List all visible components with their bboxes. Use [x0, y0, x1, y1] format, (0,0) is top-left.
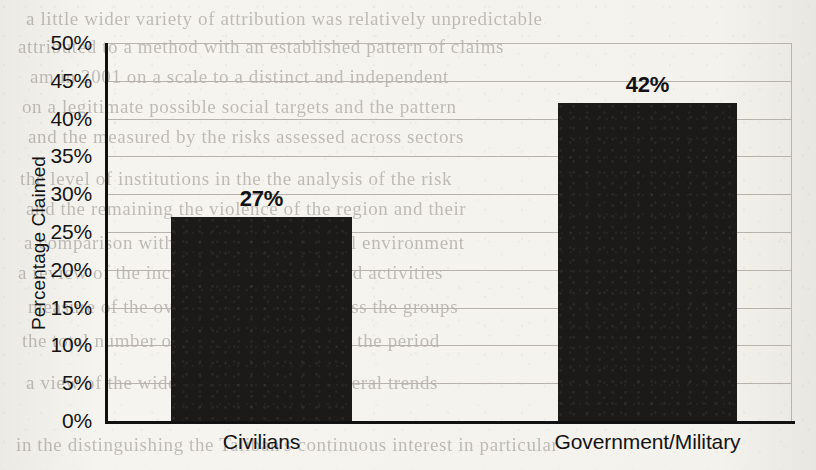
y-axis-tick-label: 30% — [51, 182, 92, 206]
y-axis-tick-label: 45% — [51, 69, 92, 93]
y-axis-tick-label: 10% — [51, 333, 92, 357]
y-axis-tick-label: 0% — [62, 409, 92, 433]
x-axis-category-label: Government/Military — [555, 430, 741, 454]
y-axis-tick-label: 5% — [62, 371, 92, 395]
bar-value-label: 42% — [626, 72, 669, 98]
y-axis-tick-label: 50% — [51, 31, 92, 55]
bar-chart: 50%45%40%35%30%25%20%15%10%5%0% Percenta… — [0, 0, 816, 470]
y-axis-tick-label: 15% — [51, 296, 92, 320]
y-axis-tick-label: 25% — [51, 220, 92, 244]
y-axis-tick-label: 40% — [51, 107, 92, 131]
bar-value-label: 27% — [240, 186, 283, 212]
y-axis-tick-label: 35% — [51, 144, 92, 168]
y-axis-title: Percentage Claimed — [28, 118, 50, 368]
y-axis-tick-label: 20% — [51, 258, 92, 282]
bar — [558, 103, 737, 421]
bar — [171, 217, 352, 421]
x-axis-category-label: Civilians — [223, 430, 300, 454]
